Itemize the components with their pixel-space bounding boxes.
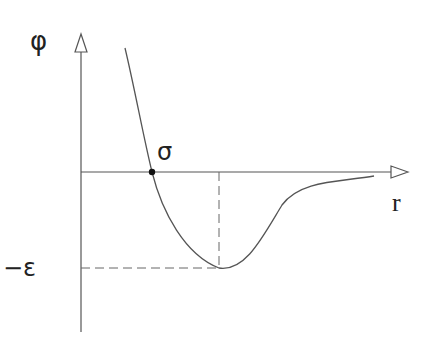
- y-axis-label: φ: [30, 28, 47, 54]
- x-axis-arrow-icon: [391, 166, 408, 178]
- sigma-label: σ: [157, 140, 172, 164]
- sigma-point: [149, 169, 155, 175]
- potential-plot: [0, 0, 427, 342]
- y-axis-arrow-icon: [75, 34, 87, 52]
- well-depth-label: −ε: [3, 256, 36, 280]
- x-axis-label: r: [392, 190, 401, 216]
- diagram-canvas: φ σ r −ε: [0, 0, 427, 342]
